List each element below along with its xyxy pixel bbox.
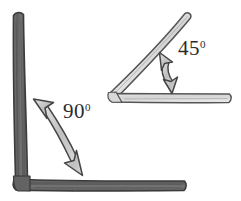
angle-label-fortyfive-value: 45 [178, 36, 200, 60]
angle-label-ninety-value: 90 [63, 99, 85, 123]
ninety-horizontal-arm [13, 179, 186, 191]
angle-label-ninety: 900 [63, 101, 91, 122]
forty-five-degree-angle-arrow [160, 53, 178, 94]
ninety-corner-joint [14, 176, 31, 191]
angle-label-fortyfive: 450 [178, 38, 206, 59]
degree-symbol-icon: 0 [200, 38, 206, 50]
diagram-vector-layer [0, 0, 241, 201]
ninety-vertical-arm [13, 13, 27, 181]
diagram-canvas: 900 450 [0, 0, 241, 201]
fortyfive-horizontal-arm [109, 94, 231, 103]
degree-symbol-icon: 0 [85, 101, 91, 113]
